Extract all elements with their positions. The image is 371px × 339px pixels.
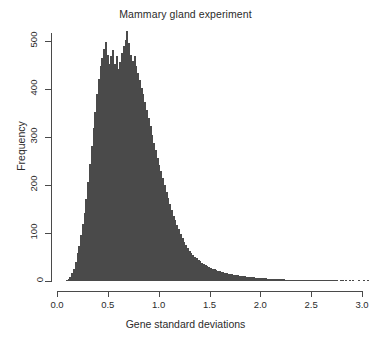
y-axis-title: Frequency	[15, 106, 27, 186]
x-tick-mark	[159, 291, 160, 297]
x-tick-label: 2.5	[291, 299, 331, 310]
histogram-bar	[349, 280, 351, 281]
x-axis-title: Gene standard deviations	[0, 318, 371, 330]
histogram-bar	[358, 280, 360, 281]
x-tick-mark	[108, 291, 109, 297]
histogram-bar	[342, 280, 344, 281]
y-tick-label: 500	[0, 34, 42, 45]
y-tick-label: 400	[0, 82, 42, 93]
y-tick-label: 0	[0, 274, 42, 285]
x-tick-label: 2.0	[240, 299, 280, 310]
x-tick-mark	[210, 291, 211, 297]
x-tick-label: 3.0	[342, 299, 371, 310]
x-tick-label: 0.0	[37, 299, 77, 310]
x-tick-label: 0.5	[88, 299, 128, 310]
y-tick-mark	[45, 41, 51, 42]
histogram-bar	[352, 280, 354, 281]
histogram-bars	[57, 31, 362, 281]
plot-area	[57, 31, 362, 281]
histogram-bar	[367, 280, 369, 281]
y-tick-label: 200	[0, 178, 42, 189]
y-tick-mark	[45, 233, 51, 234]
histogram-bar	[345, 280, 347, 281]
x-tick-mark	[57, 291, 58, 297]
histogram-bar	[363, 280, 365, 281]
x-tick-mark	[362, 291, 363, 297]
histogram-figure: Mammary gland experiment Frequency Gene …	[0, 0, 371, 339]
y-axis-line	[51, 33, 52, 282]
histogram-bar	[336, 280, 338, 281]
y-tick-mark	[45, 137, 51, 138]
y-tick-label: 100	[0, 226, 42, 237]
page-title: Mammary gland experiment	[0, 8, 371, 20]
y-tick-mark	[45, 185, 51, 186]
x-tick-label: 1.0	[139, 299, 179, 310]
y-tick-mark	[45, 89, 51, 90]
x-tick-label: 1.5	[190, 299, 230, 310]
x-tick-mark	[311, 291, 312, 297]
y-tick-mark	[45, 281, 51, 282]
y-tick-label: 300	[0, 130, 42, 141]
x-tick-mark	[260, 291, 261, 297]
